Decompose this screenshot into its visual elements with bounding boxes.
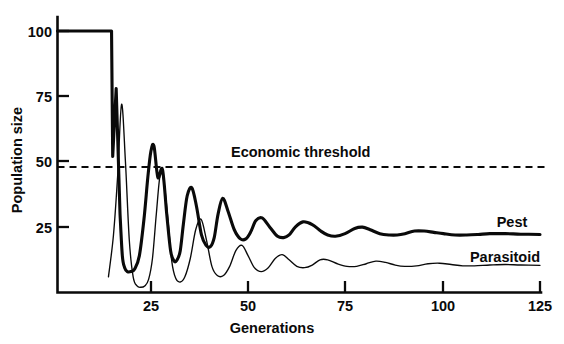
y-tick-label-75: 75: [36, 89, 52, 105]
y-tick-label-50: 50: [36, 154, 52, 170]
chart-figure: 100 75 50 25 Population size 25 50 75 10…: [0, 0, 564, 344]
parasitoid-series-label: Parasitoid: [470, 249, 540, 265]
x-tick-label-125: 125: [528, 298, 552, 314]
y-tick-label-25: 25: [36, 220, 52, 236]
economic-threshold-label: Economic threshold: [231, 144, 370, 160]
x-axis-title: Generations: [230, 320, 315, 336]
x-tick-label-50: 50: [240, 298, 256, 314]
y-axis-title: Population size: [9, 107, 25, 213]
x-tick-label-75: 75: [337, 298, 353, 314]
pest-series-label: Pest: [497, 214, 528, 230]
x-tick-label-100: 100: [431, 298, 455, 314]
y-tick-label-100: 100: [28, 24, 52, 40]
population-dynamics-chart: 100 75 50 25 Population size 25 50 75 10…: [0, 0, 564, 344]
x-tick-label-25: 25: [143, 298, 159, 314]
